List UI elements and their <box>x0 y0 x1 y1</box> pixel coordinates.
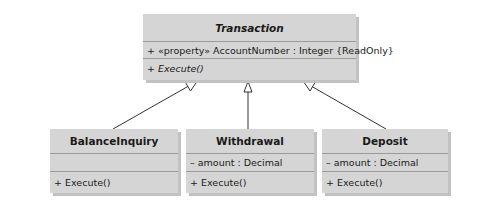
operation: + Execute() <box>147 63 204 74</box>
attribute: + «property» AccountNumber : Integer {Re… <box>147 45 394 56</box>
class-withdrawal: Withdrawal – amount : Decimal + Execute(… <box>186 129 314 193</box>
class-operations: + Execute() <box>186 172 314 193</box>
class-name: Transaction <box>143 14 356 42</box>
hollow-triangle-arrowhead-icon <box>304 82 316 92</box>
class-attributes: + «property» AccountNumber : Integer {Re… <box>143 42 356 59</box>
class-attributes <box>50 154 178 172</box>
class-operations: + Execute() <box>50 172 178 193</box>
attribute: – amount : Decimal <box>326 157 418 168</box>
hollow-triangle-arrowhead-icon <box>244 82 252 93</box>
generalization-deposit-transaction <box>304 82 387 130</box>
class-attributes: – amount : Decimal <box>322 154 448 172</box>
hollow-triangle-arrowhead-icon <box>186 82 198 92</box>
class-name: Deposit <box>322 129 448 154</box>
generalization-balanceinquiry-transaction <box>113 82 197 130</box>
class-balanceinquiry: BalanceInquiry + Execute() <box>50 129 178 193</box>
class-deposit: Deposit – amount : Decimal + Execute() <box>322 129 448 193</box>
class-operations: + Execute() <box>143 59 356 78</box>
class-transaction: Transaction + «property» AccountNumber :… <box>143 14 356 80</box>
class-name: BalanceInquiry <box>50 129 178 154</box>
attribute: – amount : Decimal <box>190 157 282 168</box>
class-operations: + Execute() <box>322 172 448 193</box>
class-name: Withdrawal <box>186 129 314 154</box>
class-attributes: – amount : Decimal <box>186 154 314 172</box>
operation: + Execute() <box>54 177 110 188</box>
operation: + Execute() <box>326 177 382 188</box>
generalization-withdrawal-transaction <box>244 82 252 130</box>
operation: + Execute() <box>190 177 246 188</box>
